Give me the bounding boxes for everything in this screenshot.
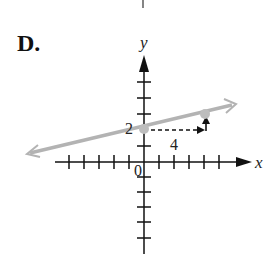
- second-point: [200, 109, 210, 119]
- origin-label: 0: [134, 162, 142, 179]
- coordinate-plane: y x 2 4 0: [0, 0, 275, 264]
- run-label: 4: [170, 136, 178, 153]
- y-axis: [137, 55, 151, 254]
- y-intercept-label: 2: [125, 120, 133, 137]
- y-axis-label: y: [138, 33, 148, 52]
- y-axis-arrow-icon: [139, 55, 149, 72]
- y-intercept-point: [139, 124, 149, 134]
- x-axis-arrow-icon: [236, 157, 252, 167]
- x-axis-label: x: [254, 153, 263, 172]
- x-axis: [55, 155, 252, 169]
